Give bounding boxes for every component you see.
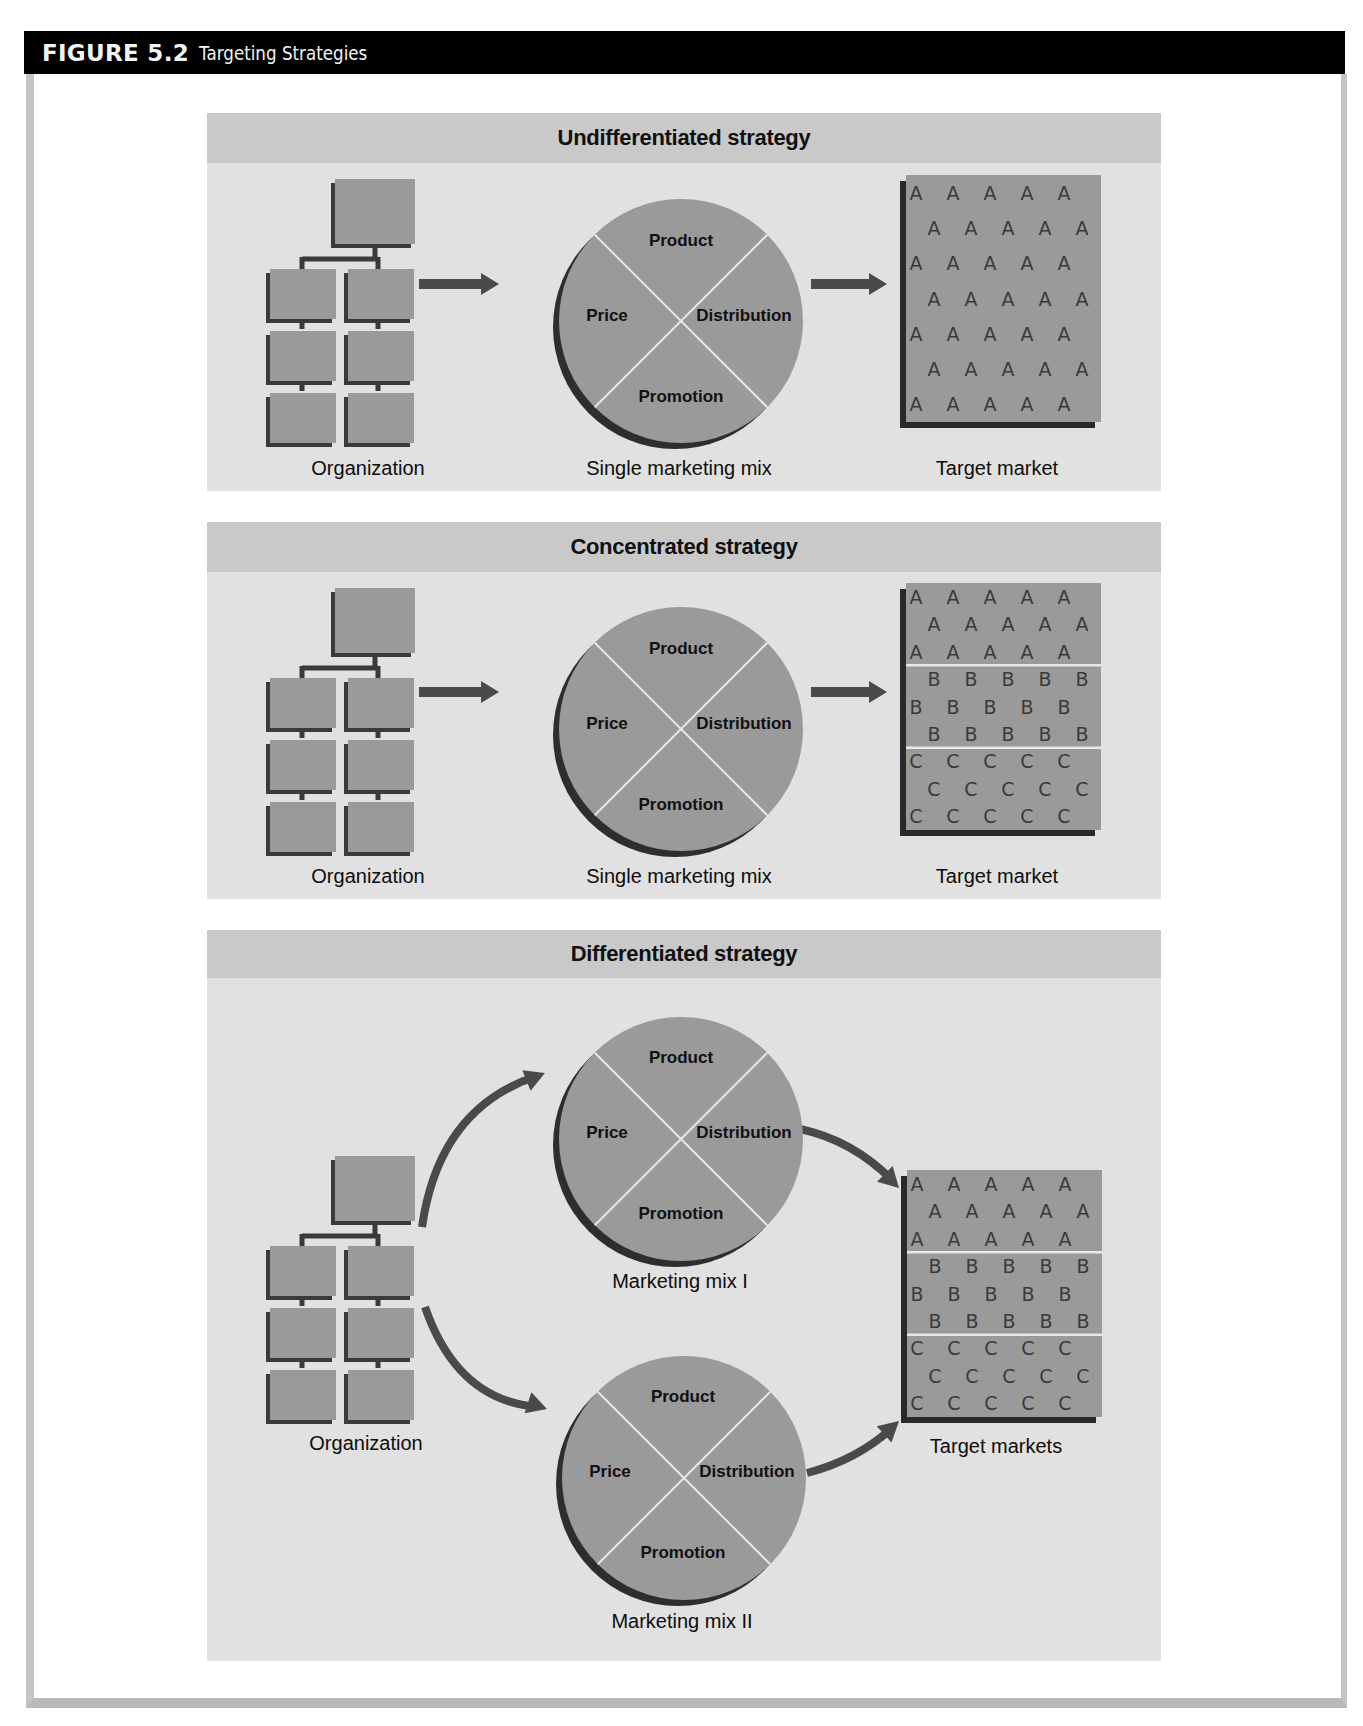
segment-letter-a: A (1076, 288, 1089, 310)
segment-letter-a: A (1003, 1200, 1016, 1222)
org-chart-box (266, 331, 336, 385)
segment-letter-c: C (946, 805, 959, 827)
segment-letter-b: B (910, 1283, 923, 1305)
segment-letter-a: A (910, 393, 923, 415)
segment-letter-b: B (947, 1283, 960, 1305)
quadrant-product: Product (649, 1048, 713, 1068)
segment-letter-a: A (1021, 323, 1034, 345)
segment-letter-a: A (985, 1173, 998, 1195)
segment-letter-a: A (985, 1228, 998, 1250)
segment-letter-b: B (983, 696, 996, 718)
segment-letter-a: A (1002, 288, 1015, 310)
curved-arrow-icon (425, 1307, 547, 1413)
segment-letter-a: A (948, 1228, 961, 1250)
org-chart-box (344, 1246, 414, 1300)
segment-letter-c: C (947, 1392, 960, 1414)
quadrant-price: Price (586, 306, 628, 326)
segment-letter-a: A (1058, 252, 1071, 274)
segment-letter-b: B (927, 723, 940, 745)
org-chart-box (266, 393, 336, 447)
org-chart-box (344, 802, 414, 856)
segment-letter-a: A (984, 323, 997, 345)
figure-title: Targeting Strategies (199, 42, 367, 64)
segment-letter-b: B (965, 1310, 978, 1332)
segment-letter-c: C (1021, 1337, 1034, 1359)
segment-letter-c: C (964, 778, 977, 800)
marketing-mix-1-label: Marketing mix I (612, 1270, 748, 1293)
segment-letter-a: A (947, 586, 960, 608)
segment-letter-b: B (1075, 723, 1088, 745)
segment-letter-c: C (909, 750, 922, 772)
segment-letter-b: B (946, 696, 959, 718)
segment-letter-c: C (910, 1392, 923, 1414)
segment-letter-b: B (1057, 696, 1070, 718)
segment-letter-a: A (966, 1200, 979, 1222)
segment-letter-a: A (1076, 358, 1089, 380)
segment-letter-a: A (1059, 1228, 1072, 1250)
segment-letter-b: B (909, 696, 922, 718)
segment-letter-a: A (928, 217, 941, 239)
org-chart-box (344, 678, 414, 732)
segment-letter-a: A (1058, 323, 1071, 345)
segment-letter-a: A (947, 641, 960, 663)
org-chart-box (344, 1308, 414, 1362)
segment-letter-b: B (964, 668, 977, 690)
target-market-block: AAAAAAAAAAAAAAABBBBBBBBBBBBBBBCCCCCCCCCC… (901, 1170, 1102, 1423)
segment-letter-b: B (1076, 1310, 1089, 1332)
segment-letter-c: C (1038, 778, 1051, 800)
curved-arrow-icon (800, 1129, 899, 1188)
target-markets-label: Target markets (930, 1435, 1062, 1458)
segment-letter-a: A (1040, 1200, 1053, 1222)
segment-letter-a: A (984, 393, 997, 415)
segment-letter-a: A (1022, 1228, 1035, 1250)
quadrant-distribution: Distribution (696, 714, 791, 734)
segment-letter-a: A (1058, 182, 1071, 204)
segment-letter-c: C (1002, 1365, 1015, 1387)
org-chart-box (266, 1370, 336, 1424)
quadrant-distribution: Distribution (696, 306, 791, 326)
quadrant-distribution: Distribution (696, 1123, 791, 1143)
segment-letter-a: A (1039, 613, 1052, 635)
segment-letter-a: A (1077, 1200, 1090, 1222)
segment-letter-a: A (947, 182, 960, 204)
segment-letter-a: A (984, 641, 997, 663)
segment-letter-a: A (910, 586, 923, 608)
segment-letter-b: B (1039, 1310, 1052, 1332)
figure-number: FIGURE 5.2 (42, 40, 189, 66)
segment-letter-b: B (1075, 668, 1088, 690)
segment-letter-b: B (1076, 1255, 1089, 1277)
segment-letter-a: A (947, 323, 960, 345)
segment-letter-a: A (947, 393, 960, 415)
segment-letter-c: C (1075, 778, 1088, 800)
target-market-block: AAAAAAAAAAAAAAAAAAAAAAAAAAAAAAAAAAA (900, 175, 1101, 428)
org-chart-box (266, 1246, 336, 1300)
segment-letter-c: C (983, 805, 996, 827)
segment-letter-a: A (910, 323, 923, 345)
target-market-label: Target market (936, 865, 1058, 888)
diagram-concentrated: AAAAAAAAAAAAAAABBBBBBBBBBBBBBBCCCCCCCCCC… (207, 522, 1161, 899)
org-chart-top-box (331, 1156, 415, 1225)
segment-letter-a: A (1076, 217, 1089, 239)
segment-letter-a: A (910, 641, 923, 663)
quadrant-product: Product (649, 231, 713, 251)
quadrant-promotion: Promotion (639, 387, 724, 407)
segment-letter-b: B (965, 1255, 978, 1277)
figure-header: FIGURE 5.2 Targeting Strategies (24, 31, 1345, 74)
curved-arrow-icon (422, 1070, 545, 1227)
arrow-right-icon (419, 681, 499, 703)
segment-letter-a: A (1059, 1173, 1072, 1195)
segment-letter-a: A (1021, 252, 1034, 274)
marketing-mix-2-label: Marketing mix II (611, 1610, 752, 1633)
segment-letter-c: C (965, 1365, 978, 1387)
segment-letter-a: A (965, 288, 978, 310)
segment-letter-c: C (946, 750, 959, 772)
panel-concentrated: Concentrated strategy AAAAAAAAAAAAAAABBB… (207, 522, 1161, 899)
segment-letter-a: A (910, 182, 923, 204)
segment-letter-a: A (965, 358, 978, 380)
quadrant-price: Price (589, 1462, 631, 1482)
panel-differentiated: Differentiated strategy AAAAAAAAAAAAAAAB… (207, 930, 1161, 1661)
marketing-mix-label: Single marketing mix (586, 865, 772, 888)
organization-label: Organization (311, 865, 424, 888)
segment-letter-a: A (1076, 613, 1089, 635)
segment-letter-c: C (1020, 805, 1033, 827)
